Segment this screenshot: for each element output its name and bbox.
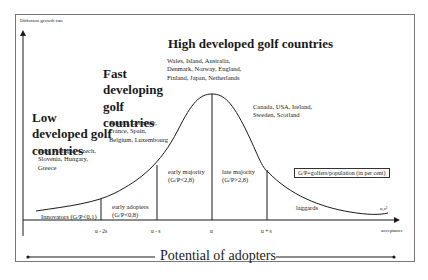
segment-laggards: laggards (296, 204, 318, 212)
x-tick-u-s: u - s (151, 228, 160, 234)
footer-label: Potential of adopters (160, 248, 276, 264)
group-title-high: High developed golf countries (168, 36, 333, 52)
legend-note: G/P=golfers/population (in per cent) (294, 168, 390, 178)
segment-late-majority: late majority(G/P>2,8) (222, 168, 255, 185)
group-countries-low: Italy, Portugal, Czech, Slovenia, Hungar… (38, 147, 98, 172)
y-axis-label: Diffusion growth rate (20, 18, 63, 24)
group-countries-high: Wales, Island, Australia, Denmark, Norwa… (167, 57, 247, 82)
x-tick-u-plus-s: u + s (261, 228, 272, 234)
group-countries-fast: Austria, Germany, France, Spain, Belgium… (109, 119, 169, 144)
x-tick-u: u (210, 228, 213, 234)
x-axis-label: acceptance (381, 228, 403, 234)
segment-innovators: Innovators (G/P<0,1) (41, 213, 97, 221)
curve-end-label: u,s² (380, 206, 387, 212)
segment-early-majority: early majority(G/P<2,8) (168, 168, 205, 185)
x-tick-u-2s: u - 2s (95, 228, 107, 234)
group-countries-late: Canada, USA, Ireland, Sweden, Scotland (253, 103, 313, 120)
segment-early-adopters: early adopters(G/P<0,8) (112, 203, 149, 220)
